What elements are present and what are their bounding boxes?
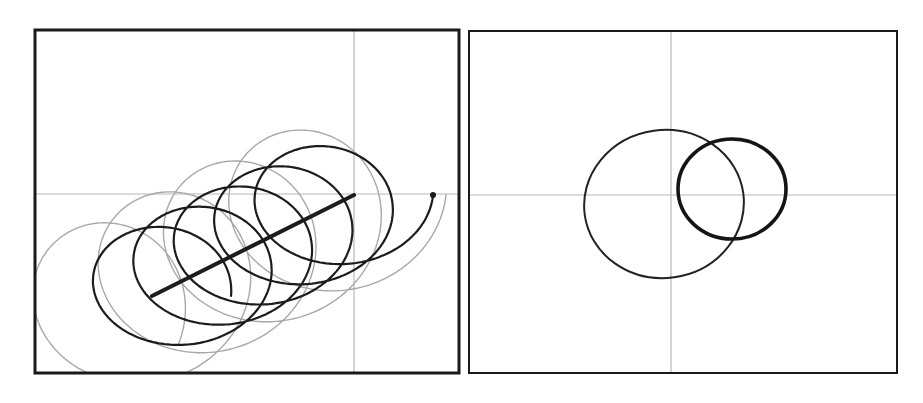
right-panel-frame <box>469 31 897 373</box>
small-thick-circle <box>678 139 786 239</box>
right-plot-canvas <box>0 0 923 403</box>
large-ellipse <box>574 120 753 289</box>
